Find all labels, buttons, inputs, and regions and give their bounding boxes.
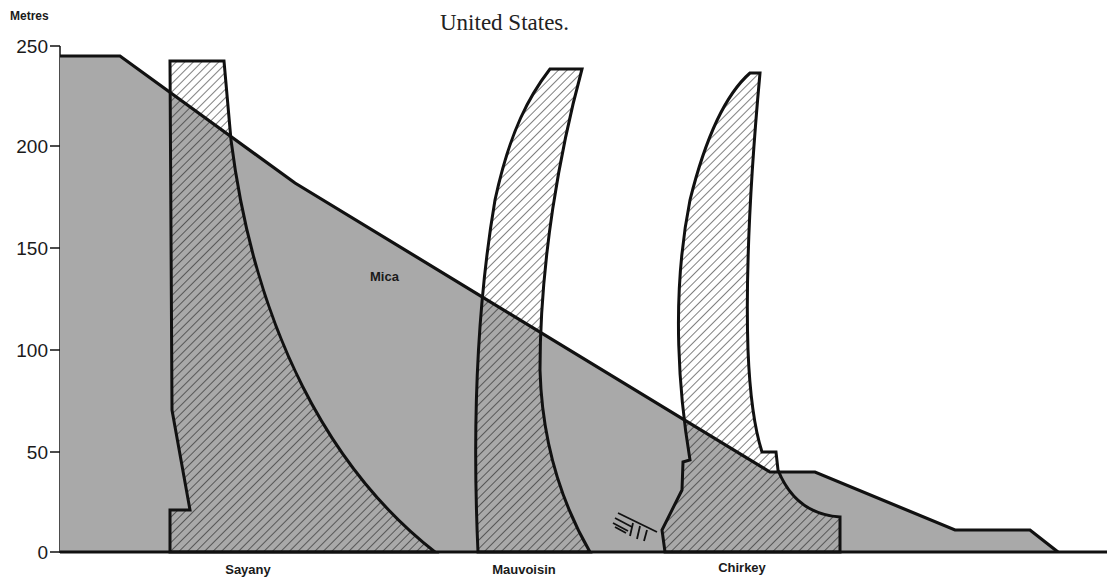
dam-comparison-diagram: Metres 250 200 150 100 50 0 [0,0,1107,578]
y-axis: Metres 250 200 150 100 50 0 [10,9,60,563]
label-chirkey: Chirkey [718,560,766,575]
label-sayany: Sayany [225,562,271,577]
tick-label-150: 150 [16,238,48,259]
axis-unit-label: Metres [10,9,49,23]
tick-label-0: 0 [37,542,48,563]
tick-label-50: 50 [27,442,48,463]
label-mauvoisin: Mauvoisin [492,562,556,577]
label-mica: Mica [370,269,400,284]
tick-label-250: 250 [16,36,48,57]
tick-label-100: 100 [16,340,48,361]
tick-label-200: 200 [16,136,48,157]
